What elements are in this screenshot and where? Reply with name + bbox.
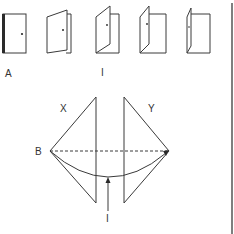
label-a: A xyxy=(5,68,12,79)
rotation-arc xyxy=(50,151,166,177)
label-i-bottom: I xyxy=(106,213,109,224)
label-b: B xyxy=(35,146,42,157)
door-1-closed xyxy=(2,14,26,53)
label-x: X xyxy=(60,103,67,114)
door-5-nearly-perpendicular xyxy=(187,8,210,53)
label-y: Y xyxy=(148,103,155,114)
rotation-diagram xyxy=(50,97,169,211)
i-arrowhead-icon xyxy=(106,177,111,183)
triangle-y xyxy=(124,97,169,203)
triangle-x xyxy=(50,97,96,203)
door-4-mostly-open xyxy=(140,6,166,53)
door-rotation-diagram: A I X Y B I xyxy=(0,0,234,234)
door-3-half-open xyxy=(96,6,119,53)
label-i-top: I xyxy=(101,67,104,78)
door-2-slightly-open xyxy=(47,10,71,53)
